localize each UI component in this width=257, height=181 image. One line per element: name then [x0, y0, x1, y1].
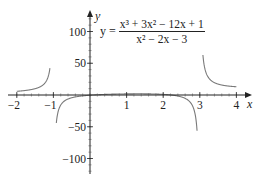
- curve-branch-1: [17, 68, 50, 91]
- x-tick-label: −2: [8, 99, 20, 111]
- x-tick-label: 1: [124, 99, 130, 111]
- x-tick-label: 3: [197, 99, 203, 111]
- x-axis: −2−11234 x: [8, 92, 253, 111]
- x-tick-label: 4: [234, 99, 240, 111]
- y-tick-label: −50: [68, 121, 86, 133]
- equation-numerator: x³ + 3x² − 12x + 1: [119, 18, 205, 32]
- equation-fraction: x³ + 3x² − 12x + 1 x² − 2x − 3: [119, 18, 205, 45]
- x-axis-label: x: [246, 97, 253, 111]
- equation-denominator: x² − 2x − 3: [136, 32, 187, 45]
- x-tick-label: −1: [44, 99, 56, 111]
- curve-branch-3: [203, 55, 236, 87]
- equation-lhs: y =: [100, 24, 116, 39]
- y-tick-label: 100: [69, 26, 87, 38]
- function-equation: y = x³ + 3x² − 12x + 1 x² − 2x − 3: [98, 18, 207, 45]
- y-axis-arrow-icon: [87, 10, 93, 17]
- y-tick-label: 50: [75, 57, 87, 69]
- y-tick-label: −100: [62, 153, 86, 165]
- y-axis: 10050−50−100 y: [62, 9, 101, 174]
- x-tick-label: 2: [160, 99, 166, 111]
